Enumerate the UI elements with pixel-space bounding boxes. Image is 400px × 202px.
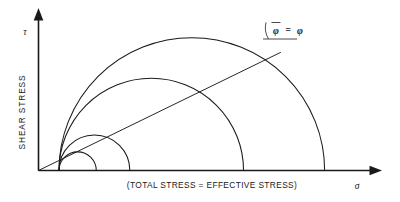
mohr-circles-group [59,38,325,171]
y-axis-group [34,8,44,171]
mohr-circle-3 [59,78,244,170]
mohr-circle-1 [59,152,96,171]
failure-envelope-group [39,52,281,170]
x-axis-name-label: (TOTAL STRESS = EFFECTIVE STRESS) [127,180,297,190]
sigma-symbol-label: σ [355,181,360,191]
phi-bar-symbol: φ [273,25,279,36]
mohr-circle-2 [59,135,130,170]
y-axis-arrowhead [34,8,44,21]
angle-arc [265,23,268,40]
failure-envelope-line [39,52,281,170]
envelope-angle-label-group: φ = φ [272,23,304,37]
y-axis-name-label: SHEAR STRESS [17,75,27,150]
mohr-circle-figure: τ SHEAR STRESS (TOTAL STRESS = EFFECTIVE… [0,0,400,202]
mohr-circle-4 [59,38,325,171]
tau-symbol-label: τ [23,27,27,37]
x-axis-arrowhead [370,166,383,176]
x-axis-group [39,166,383,176]
phi-symbol: φ [297,25,303,36]
equals-sign: = [285,24,291,35]
angle-annotation-group [263,23,297,40]
